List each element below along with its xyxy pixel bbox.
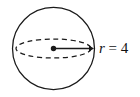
sphere-diagram-canvas: r = 4 [0, 0, 140, 97]
sphere-figure: r = 4 [0, 0, 140, 97]
radius-label-equals: = [105, 40, 121, 56]
center-point-dot [51, 46, 56, 51]
radius-label: r = 4 [99, 40, 129, 56]
radius-label-value: 4 [121, 40, 129, 56]
